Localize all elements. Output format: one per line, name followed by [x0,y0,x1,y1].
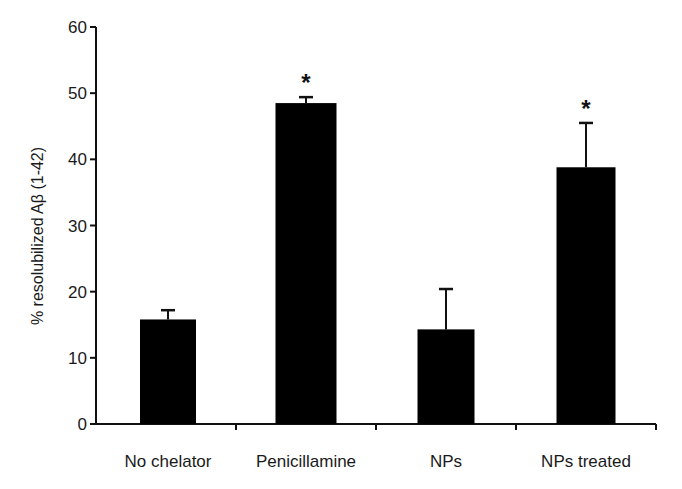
x-category-label: No chelator [125,452,212,471]
y-tick-label: 20 [68,283,87,302]
bar [276,103,337,424]
significance-marker: * [301,69,311,96]
x-axis [95,424,656,430]
x-category-label: NPs treated [541,452,631,471]
y-tick-label: 50 [68,84,87,103]
y-tick-label: 60 [68,18,87,37]
bar-chart: 0102030405060 No chelator*PenicillamineN… [0,0,682,489]
y-tick-label: 0 [78,415,87,434]
x-category-label: NPs [430,452,462,471]
bar [418,329,475,424]
y-tick-label: 10 [68,349,87,368]
bar [557,167,616,424]
significance-marker: * [581,95,591,122]
bars: No chelator*PenicillamineNPs*NPs treated [125,69,631,471]
x-category-label: Penicillamine [256,452,356,471]
y-axis-label: % resolubilized Aβ (1-42) [29,147,46,325]
bar-group: No chelator [125,310,212,471]
y-tick-label: 40 [68,150,87,169]
bar [140,319,196,424]
y-tick-label: 30 [68,217,87,236]
bar-group: *Penicillamine [256,69,356,471]
y-axis: 0102030405060 [68,18,96,434]
bar-group: NPs [418,289,475,471]
bar-group: *NPs treated [541,95,631,471]
